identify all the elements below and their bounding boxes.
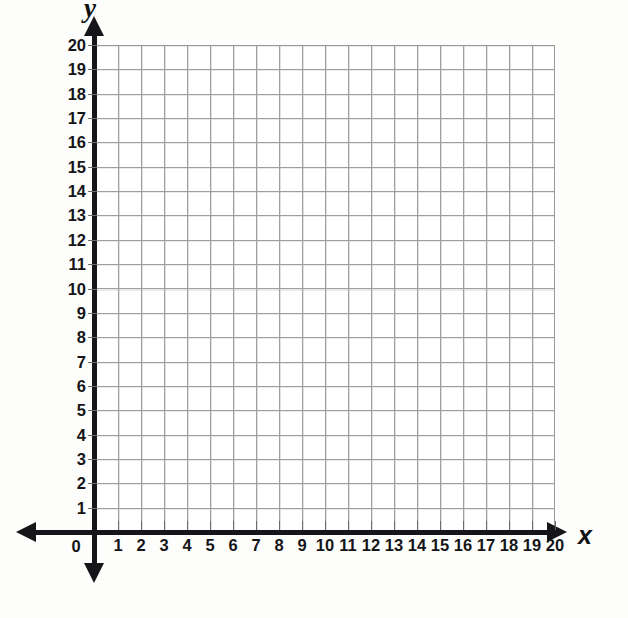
x-tick-mark bbox=[348, 521, 349, 530]
x-tick-mark bbox=[256, 521, 257, 530]
y-tick-label: 1 bbox=[56, 500, 86, 517]
y-tick-label: 4 bbox=[56, 427, 86, 444]
x-tick-label: 1 bbox=[107, 537, 130, 554]
origin-label: 0 bbox=[66, 537, 86, 556]
x-tick-mark bbox=[371, 521, 372, 530]
grid-lines bbox=[95, 45, 555, 532]
x-tick-mark bbox=[509, 521, 510, 530]
y-tick-mark bbox=[88, 167, 97, 168]
y-tick-label: 8 bbox=[56, 329, 86, 346]
y-tick-label: 2 bbox=[56, 475, 86, 492]
x-tick-mark bbox=[187, 521, 188, 530]
grid-border-right bbox=[554, 45, 555, 532]
x-tick-label: 7 bbox=[245, 537, 268, 554]
x-axis bbox=[30, 530, 550, 535]
y-tick-mark bbox=[88, 508, 97, 509]
y-tick-label: 12 bbox=[56, 232, 86, 249]
y-tick-mark bbox=[88, 191, 97, 192]
x-tick-label: 4 bbox=[176, 537, 199, 554]
y-tick-mark bbox=[88, 69, 97, 70]
x-tick-label: 16 bbox=[452, 537, 475, 554]
grid-border-top bbox=[95, 45, 555, 46]
y-tick-mark bbox=[88, 435, 97, 436]
x-tick-mark bbox=[486, 521, 487, 530]
x-tick-label: 9 bbox=[291, 537, 314, 554]
y-tick-mark bbox=[88, 45, 97, 46]
arrow-left-icon bbox=[16, 522, 36, 542]
scanned-page: y x 0 1234567891011121314151617181920 12… bbox=[0, 0, 628, 618]
x-tick-mark bbox=[417, 521, 418, 530]
x-tick-label: 13 bbox=[383, 537, 406, 554]
y-tick-mark bbox=[88, 142, 97, 143]
y-tick-mark bbox=[88, 118, 97, 119]
y-axis bbox=[92, 30, 97, 565]
x-tick-label: 14 bbox=[406, 537, 429, 554]
x-tick-label: 19 bbox=[521, 537, 544, 554]
y-tick-label: 10 bbox=[56, 281, 86, 298]
x-tick-mark bbox=[463, 521, 464, 530]
y-tick-label: 15 bbox=[56, 159, 86, 176]
y-tick-label: 13 bbox=[56, 207, 86, 224]
x-tick-mark bbox=[118, 521, 119, 530]
x-tick-label: 8 bbox=[268, 537, 291, 554]
y-tick-mark bbox=[88, 289, 97, 290]
x-tick-label: 12 bbox=[360, 537, 383, 554]
y-tick-label: 5 bbox=[56, 402, 86, 419]
x-tick-mark bbox=[440, 521, 441, 530]
y-tick-mark bbox=[88, 459, 97, 460]
y-tick-mark bbox=[88, 215, 97, 216]
y-tick-mark bbox=[88, 94, 97, 95]
x-tick-mark bbox=[210, 521, 211, 530]
x-tick-mark bbox=[394, 521, 395, 530]
y-tick-label: 20 bbox=[56, 37, 86, 54]
x-tick-label: 15 bbox=[429, 537, 452, 554]
arrow-down-icon bbox=[84, 563, 104, 583]
x-tick-label: 20 bbox=[544, 537, 567, 554]
y-tick-mark bbox=[88, 240, 97, 241]
y-tick-label: 3 bbox=[56, 451, 86, 468]
x-tick-mark bbox=[302, 521, 303, 530]
y-tick-label: 6 bbox=[56, 378, 86, 395]
x-tick-label: 2 bbox=[130, 537, 153, 554]
x-tick-mark bbox=[279, 521, 280, 530]
y-tick-mark bbox=[88, 386, 97, 387]
x-tick-mark bbox=[532, 521, 533, 530]
x-tick-mark bbox=[233, 521, 234, 530]
x-tick-mark bbox=[555, 521, 556, 530]
x-tick-mark bbox=[325, 521, 326, 530]
y-tick-mark bbox=[88, 264, 97, 265]
y-axis-label: y bbox=[84, 0, 96, 24]
x-tick-label: 5 bbox=[199, 537, 222, 554]
y-tick-mark bbox=[88, 362, 97, 363]
y-tick-label: 19 bbox=[56, 61, 86, 78]
x-tick-label: 3 bbox=[153, 537, 176, 554]
coordinate-grid bbox=[95, 45, 555, 532]
x-tick-label: 11 bbox=[337, 537, 360, 554]
x-tick-label: 17 bbox=[475, 537, 498, 554]
y-tick-label: 9 bbox=[56, 305, 86, 322]
y-tick-mark bbox=[88, 410, 97, 411]
x-axis-label: x bbox=[578, 521, 592, 550]
y-tick-mark bbox=[88, 483, 97, 484]
y-tick-label: 16 bbox=[56, 134, 86, 151]
y-tick-label: 11 bbox=[56, 256, 86, 273]
y-tick-mark bbox=[88, 313, 97, 314]
x-tick-label: 18 bbox=[498, 537, 521, 554]
x-tick-mark bbox=[164, 521, 165, 530]
y-tick-label: 18 bbox=[56, 86, 86, 103]
y-tick-label: 7 bbox=[56, 354, 86, 371]
x-tick-mark bbox=[141, 521, 142, 530]
x-tick-label: 10 bbox=[314, 537, 337, 554]
y-tick-label: 17 bbox=[56, 110, 86, 127]
y-tick-mark bbox=[88, 337, 97, 338]
x-tick-label: 6 bbox=[222, 537, 245, 554]
y-tick-label: 14 bbox=[56, 183, 86, 200]
